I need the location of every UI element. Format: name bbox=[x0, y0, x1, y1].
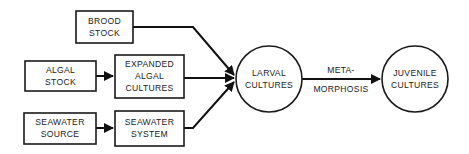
node-brood-stock: BROOD STOCK bbox=[76, 11, 133, 43]
node-larval-cultures: LARVAL CULTURES bbox=[236, 46, 302, 112]
node-circle bbox=[236, 46, 302, 112]
edge-label-line: MORPHOSIS bbox=[313, 84, 368, 94]
node-label-line: EXPANDED bbox=[125, 59, 174, 69]
node-label-line: ALGAL bbox=[46, 65, 75, 75]
node-label-line: STOCK bbox=[89, 28, 120, 38]
node-algal-stock: ALGAL STOCK bbox=[25, 61, 96, 91]
node-circle bbox=[382, 46, 448, 112]
node-label-line: STOCK bbox=[45, 77, 76, 87]
node-label-line: SOURCE bbox=[41, 129, 80, 139]
node-label-line: SYSTEM bbox=[131, 129, 168, 139]
node-seawater-source: SEAWATER SOURCE bbox=[24, 113, 96, 144]
edge-label-line: META- bbox=[327, 65, 355, 75]
node-juvenile-cultures: JUVENILE CULTURES bbox=[382, 46, 448, 112]
node-expanded-algal-cultures: EXPANDED ALGAL CULTURES bbox=[115, 55, 184, 98]
node-label-line: CULTURES bbox=[391, 80, 439, 90]
node-label-line: BROOD bbox=[88, 16, 121, 26]
node-label-line: SEAWATER bbox=[35, 117, 84, 127]
node-label-line: SEAWATER bbox=[125, 117, 174, 127]
node-label-line: LARVAL bbox=[252, 68, 286, 78]
node-label-line: JUVENILE bbox=[393, 68, 436, 78]
aquaculture-flow-diagram: BROOD STOCK ALGAL STOCK EXPANDED ALGAL C… bbox=[0, 0, 469, 154]
edge-seawater-system-to-larval-cultures bbox=[184, 82, 234, 128]
node-label-line: CULTURES bbox=[125, 83, 173, 93]
node-label-line: ALGAL bbox=[135, 71, 164, 81]
node-seawater-system: SEAWATER SYSTEM bbox=[115, 111, 184, 146]
node-label-line: CULTURES bbox=[245, 80, 293, 90]
